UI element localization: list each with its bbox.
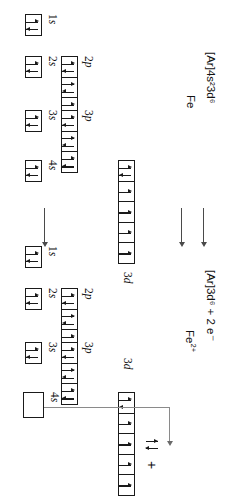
ion-orbital-1s-label: 1s xyxy=(47,246,59,256)
orbital-box xyxy=(118,181,135,203)
ion-species-name-base: Fe xyxy=(184,330,196,343)
orbital-box xyxy=(118,392,135,414)
electron-arrow-down xyxy=(27,71,39,72)
electron-arrow-down xyxy=(63,146,75,147)
electron-arrow-down xyxy=(63,357,75,358)
electron-arrow-down xyxy=(63,324,75,325)
orbital-label-l: s xyxy=(47,62,59,66)
electron-arrow-up xyxy=(63,159,75,160)
electron-arrow-down xyxy=(63,92,75,93)
orbital-label-l: s xyxy=(47,20,59,24)
electron-arrow-down xyxy=(27,175,39,176)
electron-arrow-up xyxy=(63,391,75,392)
fe-orbital-4s-boxes xyxy=(25,160,42,182)
electron-arrow-up xyxy=(27,118,39,119)
ion-configuration-text: [Ar]3d⁶ + 2 e⁻ xyxy=(205,270,217,341)
ion-orbital-2s-boxes xyxy=(25,288,42,310)
orbital-box xyxy=(25,342,42,364)
electron-arrow-up xyxy=(27,254,39,255)
fe-orbital-2s-boxes xyxy=(25,56,42,78)
electron-arrow-up xyxy=(63,296,75,297)
electron-arrow-up xyxy=(27,22,39,23)
fe-orbital-2p-label: 2p xyxy=(83,56,95,68)
ion-orbital-3s-boxes xyxy=(25,342,42,364)
electron-arrow-down xyxy=(27,29,39,30)
orbital-label-l: s xyxy=(47,116,59,120)
fe-configuration: [Ar]4s²3d⁶ xyxy=(204,52,218,103)
fe-orbital-1s-label: 1s xyxy=(47,14,59,24)
ion-species-name: Fe2+ xyxy=(183,330,198,352)
orbital-box-empty xyxy=(23,392,44,418)
electron-arrow-down xyxy=(120,175,132,176)
ion-orbital-1s-boxes xyxy=(25,246,42,268)
orbital-label-l: s xyxy=(49,398,61,402)
electron-arrow-up xyxy=(63,138,75,139)
electron-arrow-up xyxy=(27,296,39,297)
electron-arrow-down xyxy=(63,378,75,379)
electron-arrow-down xyxy=(27,261,39,262)
ejection-connector-horizontal xyxy=(169,407,170,441)
orbital-box xyxy=(61,110,78,132)
orbital-box xyxy=(61,342,78,364)
orbital-label-l: p xyxy=(83,116,95,122)
ion-orbital-2p-label: 2p xyxy=(83,288,95,300)
fe-orbital-3d-boxes xyxy=(118,160,135,264)
orbital-box xyxy=(118,160,135,182)
transition-arrow-3 xyxy=(203,208,204,242)
fe-orbital-3s-boxes xyxy=(25,110,42,132)
orbital-box xyxy=(25,56,42,78)
ion-orbital-2s-label: 2s xyxy=(47,288,59,298)
orbital-box xyxy=(25,160,42,182)
ion-species-name-charge: 2+ xyxy=(189,343,198,352)
orbital-box xyxy=(25,246,42,268)
orbital-label-l: p xyxy=(83,348,95,354)
orbital-box xyxy=(118,222,135,244)
ejected-electron-pair: + xyxy=(144,436,160,469)
electron-arrow-up xyxy=(63,316,75,317)
orbital-box xyxy=(61,131,78,153)
electron-arrow-up xyxy=(63,118,75,119)
orbital-label-l: s xyxy=(47,252,59,256)
electron-arrow-down xyxy=(63,71,75,72)
electron-arrow-down xyxy=(63,166,75,167)
electron-arrow-up xyxy=(120,192,132,193)
orbital-box xyxy=(61,363,78,385)
electron-arrow-up xyxy=(120,253,132,254)
ion-orbital-4s-boxes xyxy=(23,392,44,418)
electron-arrow-down xyxy=(63,125,75,126)
electron-arrow-up xyxy=(63,337,75,338)
ion-orbital-4s-label: 4s xyxy=(49,392,61,402)
electron-arrow-up xyxy=(146,441,158,442)
orbital-box xyxy=(118,413,135,435)
electron-arrow-up xyxy=(120,400,132,401)
electron-arrow-up xyxy=(120,444,132,445)
electron-arrow-down xyxy=(27,303,39,304)
orbital-box xyxy=(25,110,42,132)
fe-orbital-3p-boxes xyxy=(61,110,78,173)
fe-orbital-3d-label: 3d xyxy=(122,272,134,284)
orbital-box xyxy=(25,14,42,36)
ion-orbital-3p-label: 3p xyxy=(83,342,95,354)
electron-arrow-up xyxy=(63,84,75,85)
electron-arrow-up xyxy=(120,212,132,213)
fe-configuration-text: [Ar]4s²3d⁶ xyxy=(205,52,217,103)
electron-arrow-up xyxy=(27,168,39,169)
electron-arrow-down xyxy=(27,125,39,126)
ejection-connector-vertical xyxy=(44,407,170,408)
orbital-box xyxy=(118,474,135,496)
electron-arrow-up xyxy=(27,64,39,65)
electron-arrow-up xyxy=(120,424,132,425)
electron-arrow-up xyxy=(27,350,39,351)
orbital-label-l: p xyxy=(83,294,95,300)
electron-arrow-up xyxy=(63,105,75,106)
orbital-label-l: s xyxy=(47,348,59,352)
fe-orbital-1s-boxes xyxy=(25,14,42,36)
orbital-box xyxy=(118,433,135,455)
electron-arrow-down xyxy=(63,303,75,304)
orbital-label-l: p xyxy=(83,62,95,68)
fe-species-name: Fe xyxy=(184,95,198,108)
orbital-box xyxy=(118,242,135,264)
orbital-box xyxy=(118,201,135,223)
